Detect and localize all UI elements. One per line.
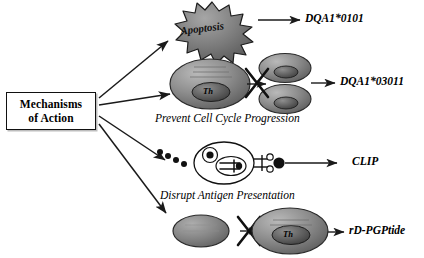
mhc-complex-icon — [253, 154, 285, 172]
resting-cell-icon — [173, 215, 229, 247]
activated-th-cell-label: Th — [283, 229, 293, 239]
mechanisms-box-line1: Mechanisms — [20, 97, 82, 111]
antigen-presenting-cell-icon — [194, 142, 254, 184]
branch-arrow-cell-cycle — [99, 94, 170, 105]
daughter-cell-bottom-icon — [259, 85, 311, 114]
mechanisms-box-line2: of Action — [28, 111, 73, 125]
daughter-cell-top-icon — [259, 54, 311, 83]
caption-prevent-cell-cycle-progression: Prevent Cell Cycle Progression — [155, 112, 300, 124]
figure-canvas: Mechanisms of Action Apoptosis Th Th DQA… — [0, 0, 424, 258]
agent-label-rd-pgptide: rD-PGPtide — [349, 224, 405, 236]
agent-label-clip: CLIP — [352, 155, 378, 167]
mechanisms-of-action-box: Mechanisms of Action — [6, 92, 96, 130]
th-cell-parent-label: Th — [203, 86, 213, 96]
branch-arrow-activation — [99, 124, 166, 213]
agent-label-dqa1-03011: DQA1*03011 — [340, 75, 404, 87]
agent-label-dqa1-0101: DQA1*0101 — [305, 12, 364, 24]
branch-arrow-apoptosis — [99, 41, 168, 98]
th-cell-parent-icon — [170, 59, 250, 109]
caption-disrupt-antigen-presentation: Disrupt Antigen Presentation — [160, 189, 295, 201]
